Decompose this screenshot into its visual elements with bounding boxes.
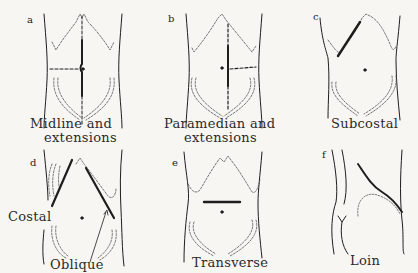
panel-e-letter: e	[172, 158, 178, 168]
panel-f-caption: Loin	[350, 254, 380, 267]
panel-e-torso	[184, 152, 262, 262]
panel-e-caption: Transverse	[192, 256, 268, 269]
panel-b-torso	[186, 14, 262, 128]
oblique-incision	[86, 168, 114, 218]
panel-c-letter: c	[313, 12, 319, 22]
panel-a-torso	[44, 14, 122, 128]
panel-b-caption-line2: extensions	[184, 131, 257, 144]
loin-incision	[358, 164, 402, 212]
panel-d-costal-label: Costal	[8, 210, 51, 223]
panel-b-caption-line1: Paramedian and	[164, 117, 275, 130]
panel-d-caption: Oblique	[50, 258, 104, 271]
costal-incision	[52, 160, 72, 206]
panel-a-caption-line1: Midline and	[30, 117, 112, 130]
panel-a-caption-line2: extensions	[44, 131, 117, 144]
panel-f-letter: f	[322, 150, 326, 160]
panel-b-letter: b	[168, 14, 174, 24]
panel-c-caption: Subcostal	[331, 117, 398, 130]
panel-d-letter: d	[30, 158, 36, 168]
subcostal-incision	[338, 22, 360, 56]
panel-d-torso	[43, 150, 124, 266]
panel-f-side	[332, 150, 404, 254]
panel-a-letter: a	[27, 15, 33, 25]
panel-c-torso	[320, 14, 400, 120]
